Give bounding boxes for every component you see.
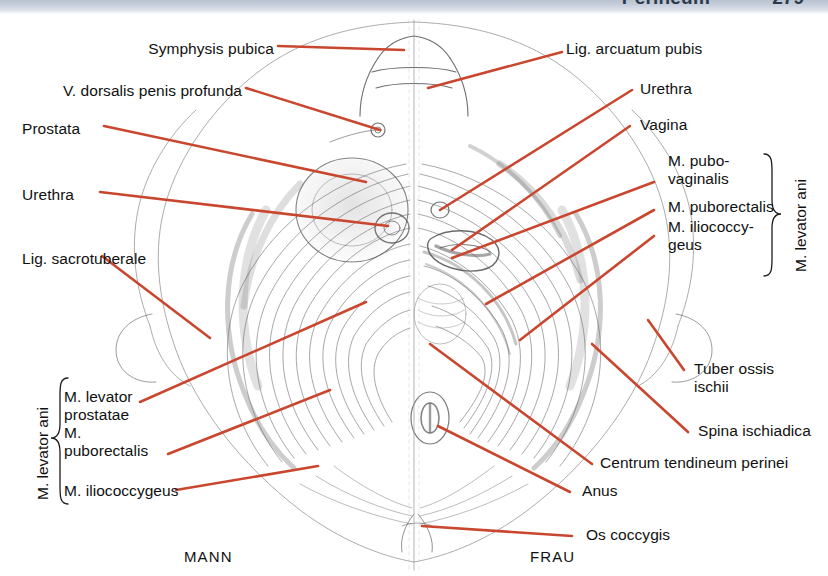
leader-m-pubovaginalis: [452, 182, 654, 258]
running-header-band: Perineum 279: [0, 0, 828, 14]
label-lig-arcuatum-pubis: Lig. arcuatum pubis: [566, 40, 702, 58]
label-v-dorsalis-penis-profunda: V. dorsalis penis profunda: [0, 82, 242, 100]
leader-anus: [438, 426, 570, 492]
label-m-iliococcygeus-male: M. iliococcygeus: [64, 482, 179, 500]
bracket-left-group-label: M. levator ani: [34, 407, 52, 500]
page-number: 279: [772, 0, 804, 9]
label-urethra-female: Urethra: [640, 80, 692, 98]
midline: [409, 20, 419, 570]
leader-lig-sacrotuberale: [102, 256, 210, 338]
caption-frau: FRAU: [530, 548, 575, 565]
label-m-pubovaginalis: M. pubo- vaginalis: [668, 152, 730, 187]
label-prostata: Prostata: [22, 120, 80, 138]
label-lig-sacrotuberale: Lig. sacrotuberale: [22, 250, 146, 268]
leader-m-levator-prostatae: [140, 302, 366, 402]
drawing-ink: [116, 20, 712, 570]
label-m-iliococcygeus-female: M. iliococcy- geus: [668, 218, 754, 253]
caption-mann: MANN: [184, 548, 233, 565]
label-m-puborectalis-male: M. puborectalis: [64, 424, 148, 459]
leader-os-coccygis: [422, 526, 572, 536]
leader-centrum-tendineum: [430, 344, 592, 464]
label-m-levator-prostatae: M. levator prostatae: [64, 388, 133, 423]
bracket-right-group-label: M. levator ani: [792, 179, 810, 272]
anatomical-figure: Symphysis pubica V. dorsalis penis profu…: [0, 14, 828, 576]
running-header-title: Perineum: [622, 0, 710, 9]
label-m-puborectalis-female: M. puborectalis: [668, 198, 774, 216]
label-anus: Anus: [582, 482, 618, 500]
leader-m-iliococcygeus-male: [176, 466, 318, 490]
label-urethra-male: Urethra: [22, 186, 74, 204]
label-vagina: Vagina: [640, 116, 687, 134]
leader-prostata: [104, 126, 366, 182]
leader-vagina: [452, 126, 630, 250]
label-tuber-ossis-ischii: Tuber ossis ischii: [694, 360, 774, 395]
label-symphysis-pubica: Symphysis pubica: [0, 40, 274, 58]
label-centrum-tendineum-perinei: Centrum tendineum perinei: [600, 454, 788, 472]
label-os-coccygis: Os coccygis: [586, 526, 670, 544]
label-spina-ischiadica: Spina ischiadica: [698, 422, 811, 440]
